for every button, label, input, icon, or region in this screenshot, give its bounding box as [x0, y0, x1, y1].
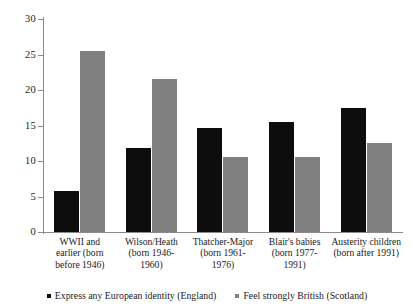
legend-label: Express any European identity (England): [55, 290, 217, 301]
bar: [197, 128, 222, 232]
legend-item: Express any European identity (England): [47, 290, 217, 301]
x-axis-category-label: Austerity children(born after 1991): [324, 236, 408, 259]
category-label-line: (born after 1991): [324, 247, 408, 258]
category-label-line: 1991): [253, 259, 337, 270]
plot-area: [44, 19, 402, 232]
legend-swatch-black-icon: [47, 294, 51, 298]
category-label-line: Austerity children: [324, 236, 408, 247]
bar: [223, 157, 248, 232]
y-axis-tick: [38, 232, 44, 233]
y-axis-tick-label: 25: [10, 50, 36, 60]
legend-label: Feel strongly British (Scotland): [243, 290, 367, 301]
legend-item: Feel strongly British (Scotland): [235, 290, 367, 301]
bar-group: [44, 19, 116, 232]
y-axis-tick-label: 15: [10, 121, 36, 131]
bar-group: [116, 19, 188, 232]
y-axis-tick-label: 10: [10, 156, 36, 166]
y-axis-tick-label: 30: [10, 14, 36, 24]
bar: [152, 79, 177, 232]
x-axis-category-labels: WWII andearlier (bornbefore 1946)Wilson/…: [44, 236, 402, 282]
bar: [80, 51, 105, 232]
bar: [295, 157, 320, 232]
grouped-bar-chart: 051015202530 WWII andearlier (bornbefore…: [0, 0, 414, 305]
chart-legend: Express any European identity (England)F…: [0, 290, 414, 301]
bar: [54, 191, 79, 232]
y-axis-tick-label: 5: [10, 192, 36, 202]
legend-swatch-gray-icon: [235, 294, 239, 298]
bar-group: [187, 19, 259, 232]
bar: [269, 122, 294, 232]
bar-group: [259, 19, 331, 232]
y-axis-tick-label: 20: [10, 85, 36, 95]
y-axis-tick-label: 0: [10, 227, 36, 237]
bar: [341, 108, 366, 232]
bar-group: [330, 19, 402, 232]
bar: [367, 143, 392, 232]
bar: [126, 148, 151, 232]
x-axis-line: [43, 232, 403, 233]
